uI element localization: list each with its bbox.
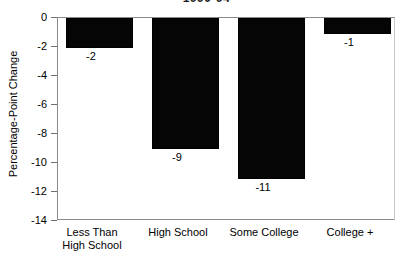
- bars-layer: [58, 18, 394, 219]
- bar-some-college: [238, 18, 305, 179]
- y-tick-mark: [51, 220, 57, 221]
- bar-less-than-high-school: [66, 18, 133, 48]
- y-tick-label: 0: [7, 11, 47, 23]
- bar-value-label-college-plus: -1: [327, 36, 371, 48]
- bar-high-school: [152, 18, 219, 149]
- y-tick-label: -4: [7, 69, 47, 81]
- x-category-label-some-college: Some College: [228, 226, 300, 239]
- bar-college-plus: [324, 18, 391, 34]
- bar-value-label-some-college: -11: [241, 181, 285, 193]
- bar-value-label-high-school: -9: [155, 151, 199, 163]
- y-tick-label: -14: [7, 214, 47, 226]
- chart-title: 1990-94: [0, 0, 413, 2]
- y-tick-label: -6: [7, 98, 47, 110]
- bar-value-label-less-than-high-school: -2: [69, 50, 113, 62]
- y-tick-label: -10: [7, 156, 47, 168]
- chart-figure: 1990-94 Percentage-Point Change 0 -2 -4 …: [0, 0, 413, 267]
- y-tick-label: -8: [7, 127, 47, 139]
- x-category-label-high-school: High School: [144, 226, 212, 239]
- y-tick-label: -2: [7, 40, 47, 52]
- x-category-label-college-plus: College +: [316, 226, 384, 239]
- x-category-label-less-than-high-school: Less Than High School: [58, 226, 126, 252]
- y-tick-label: -12: [7, 185, 47, 197]
